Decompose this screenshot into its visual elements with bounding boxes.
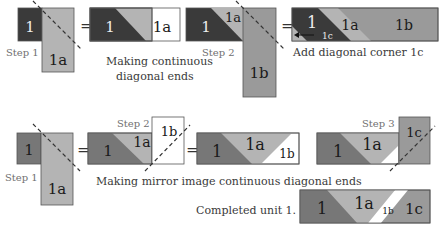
quilt-diagram: 1 1a Step 1 = 1 1a Making continuous dia… xyxy=(0,0,446,233)
bottom-step2-label-1b: 1b xyxy=(161,124,178,139)
top-step2-label-1a: 1a xyxy=(225,10,241,25)
top-result2-label-1b: 1b xyxy=(395,17,413,33)
top-result2-label-1a: 1a xyxy=(341,17,358,33)
top-caption-diagonal: diagonal ends xyxy=(116,70,194,83)
top-step1-label-1: 1 xyxy=(25,18,35,36)
top-step2-text: Step 2 xyxy=(202,47,235,58)
top-step2-label-1: 1 xyxy=(201,18,211,36)
top-step1-label-1a: 1a xyxy=(49,51,68,69)
completed-label-1c: 1c xyxy=(405,200,423,218)
bottom-step2-text: Step 2 xyxy=(117,118,150,129)
bottom-result-label-1: 1 xyxy=(212,142,222,161)
bottom-step2-label-1a: 1a xyxy=(133,134,150,150)
completed-caption: Completed unit 1. xyxy=(196,204,296,217)
top-result2-label-1: 1 xyxy=(307,13,317,32)
top-result1-label-1: 1 xyxy=(105,18,115,36)
top-step2-piece-1b xyxy=(243,8,276,97)
top-step1-text: Step 1 xyxy=(6,47,39,58)
top-step2-label-1b: 1b xyxy=(249,64,268,82)
bottom-result-label-1a: 1a xyxy=(245,135,265,154)
bottom-step1-text: Step 1 xyxy=(5,172,38,183)
top-caption-add: Add diagonal corner 1c xyxy=(292,46,424,59)
completed-label-1: 1 xyxy=(317,199,327,218)
bottom-step1-label-1: 1 xyxy=(24,141,34,159)
completed-label-1b: 1b xyxy=(382,206,394,216)
bottom-step2-label-1: 1 xyxy=(103,142,113,160)
bottom-step3-label-1: 1 xyxy=(333,142,343,161)
bottom-result-label-1b: 1b xyxy=(279,147,295,161)
bottom-caption-mirror: Making mirror image continuous diagonal … xyxy=(96,175,362,188)
bottom-step3-label-1c: 1c xyxy=(406,125,422,140)
completed-label-1a: 1a xyxy=(354,194,374,213)
top-result2-label-1c: 1c xyxy=(322,31,333,41)
bottom-step3-label-1a: 1a xyxy=(362,135,382,154)
top-caption-making: Making continuous xyxy=(106,55,213,68)
bottom-step1-label-1a: 1a xyxy=(48,180,67,198)
top-result1-label-1a: 1a xyxy=(153,18,172,36)
bottom-step3-text: Step 3 xyxy=(362,118,395,129)
